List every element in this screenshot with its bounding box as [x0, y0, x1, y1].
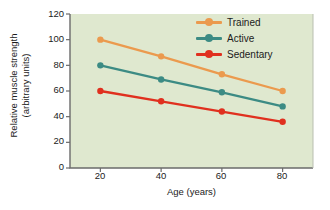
legend-label-sedentary: Sedentary [227, 49, 273, 60]
data-point [219, 89, 225, 95]
legend-dot-active [205, 34, 213, 42]
data-point [97, 36, 103, 42]
x-tick-label-20: 20 [85, 171, 115, 181]
x-tick-label-60: 60 [206, 171, 236, 181]
data-point [219, 71, 225, 77]
chart-figure: Relative muscle strength (arbitrary unit… [0, 0, 330, 210]
legend-dot-trained [205, 18, 213, 26]
data-point [279, 88, 285, 94]
x-axis-title: Age (years) [70, 186, 313, 197]
legend-marker-sedentary [196, 48, 222, 60]
legend-item-active: Active [196, 31, 314, 45]
data-point [219, 108, 225, 114]
x-tick-label-40: 40 [146, 171, 176, 181]
data-point [97, 62, 103, 68]
data-point [97, 88, 103, 94]
legend-label-active: Active [227, 33, 254, 44]
x-tick-label-80: 80 [267, 171, 297, 181]
chart-legend: Trained Active Sedentary [196, 15, 314, 63]
data-point [158, 53, 164, 59]
legend-label-trained: Trained [227, 17, 261, 28]
legend-item-trained: Trained [196, 15, 314, 29]
legend-marker-trained [196, 16, 222, 28]
data-point [279, 103, 285, 109]
legend-dot-sedentary [205, 50, 213, 58]
data-point [158, 76, 164, 82]
data-point [279, 119, 285, 125]
legend-marker-active [196, 32, 222, 44]
legend-item-sedentary: Sedentary [196, 47, 314, 61]
data-point [158, 98, 164, 104]
